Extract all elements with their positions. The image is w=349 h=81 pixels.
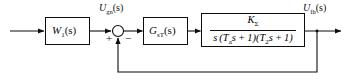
- controller-argument: (s): [164, 24, 176, 36]
- prefilter-argument: (s): [65, 24, 77, 36]
- block-label-prefilter: W1(s): [52, 25, 76, 39]
- controller-subscript: sT: [157, 31, 164, 39]
- feedback-branch-node: [316, 30, 319, 33]
- output-signal-argument: (s): [316, 2, 327, 13]
- denominator-tail: s + 1): [269, 32, 293, 43]
- plant-transfer-function: KΣ s (Tas + 1)(T2s + 1): [201, 13, 305, 47]
- summing-sign-negative: −: [125, 33, 131, 44]
- plant-numerator: KΣ: [247, 14, 258, 29]
- signal-label-output: Ufh(s): [303, 3, 326, 16]
- plant-gain-subscript: Σ: [254, 21, 258, 29]
- block-label-controller: GsT(s): [149, 25, 176, 39]
- controller-symbol: G: [149, 24, 157, 36]
- block-diagram: W1(s) GsT(s) KΣ s (Tas + 1)(T2s + 1) Ugn…: [0, 0, 349, 81]
- prefilter-symbol: W: [52, 24, 61, 36]
- summing-sign-positive: +: [106, 33, 112, 44]
- denominator-lead: s (T: [213, 32, 229, 43]
- summing-junction-circle: [113, 26, 124, 37]
- denominator-middle: s + 1)(T: [232, 32, 265, 43]
- plant-denominator: s (Tas + 1)(T2s + 1): [213, 31, 293, 46]
- signal-label-error: Ugn(s): [99, 3, 123, 16]
- error-signal-argument: (s): [113, 2, 124, 13]
